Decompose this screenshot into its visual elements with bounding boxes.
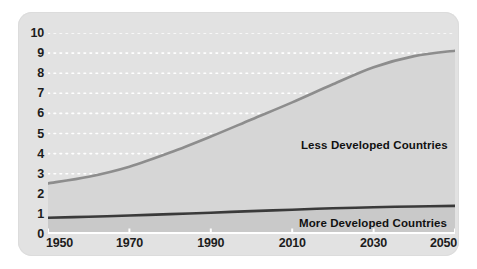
y-axis: 012345678910 bbox=[18, 33, 46, 234]
x-axis-tick-label: 1990 bbox=[197, 237, 224, 250]
area-chart-svg bbox=[48, 33, 455, 234]
x-axis-tick-label: 1950 bbox=[46, 237, 73, 250]
plot-area bbox=[48, 33, 455, 234]
x-axis: 195019701990201020302050 bbox=[48, 237, 455, 255]
x-axis-tick-label: 2030 bbox=[360, 237, 387, 250]
y-axis-tick-label: 4 bbox=[18, 147, 44, 160]
y-axis-tick-label: 10 bbox=[18, 27, 44, 40]
x-axis-tick-label: 2050 bbox=[430, 237, 457, 250]
y-axis-tick-label: 3 bbox=[18, 167, 44, 180]
y-axis-tick-label: 5 bbox=[18, 127, 44, 140]
x-axis-tick-label: 1970 bbox=[116, 237, 143, 250]
series-label-more-developed: More Developed Countries bbox=[299, 217, 447, 229]
y-axis-tick-label: 2 bbox=[18, 188, 44, 201]
y-axis-tick-label: 9 bbox=[18, 47, 44, 60]
x-axis-tick-label: 2010 bbox=[279, 237, 306, 250]
series-label-less-developed: Less Developed Countries bbox=[301, 139, 448, 151]
y-axis-tick-label: 1 bbox=[18, 208, 44, 221]
chart-panel: 012345678910 195019701990201020302050 Le… bbox=[18, 12, 459, 256]
y-axis-tick-label: 7 bbox=[18, 87, 44, 100]
y-axis-tick-label: 8 bbox=[18, 67, 44, 80]
y-axis-tick-label: 6 bbox=[18, 107, 44, 120]
y-axis-tick-label: 0 bbox=[18, 228, 44, 241]
